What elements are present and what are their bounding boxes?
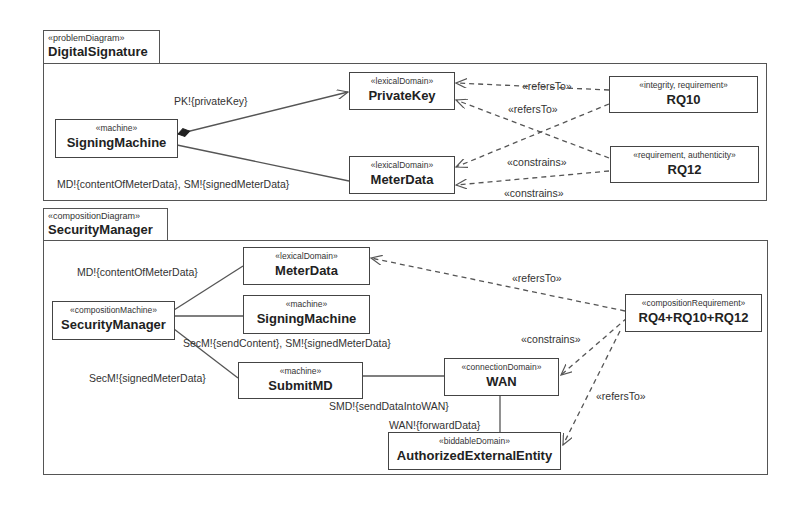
label-smd-send: SMD!{sendDataIntoWAN}	[329, 400, 449, 412]
composition-diagram-stereotype: «compositionDiagram»	[48, 211, 163, 222]
node-name: SigningMachine	[56, 134, 177, 151]
node-stereotype: «biddableDomain»	[389, 436, 560, 447]
node-stereotype: «compositionRequirement»	[626, 298, 761, 309]
node-submit-md[interactable]: «machine» SubmitMD	[238, 362, 363, 399]
node-name: RQ12	[611, 161, 758, 178]
composition-diagram-title: SecurityManager	[48, 222, 163, 237]
problem-diagram-tab: «problemDiagram» DigitalSignature	[43, 30, 160, 64]
node-stereotype: «requirement, authenticity»	[611, 150, 758, 161]
node-stereotype: «lexicalDomain»	[244, 251, 369, 262]
node-name: MeterData	[244, 262, 369, 279]
label-secm-send: SecM!{sendContent}, SM!{signedMeterData}	[183, 337, 391, 349]
composition-diagram-tab: «compositionDiagram» SecurityManager	[43, 208, 168, 241]
label-constrains-1: «constrains»	[507, 156, 567, 168]
label-md-content: MD!{contentOfMeterData}	[77, 266, 198, 278]
node-name: RQ10	[610, 91, 757, 108]
node-name: SubmitMD	[239, 377, 362, 394]
node-signing-machine[interactable]: «machine» SigningMachine	[55, 119, 178, 158]
node-stereotype: «machine»	[56, 123, 177, 134]
node-stereotype: «compositionMachine»	[53, 305, 174, 316]
label-pk: PK!{privateKey}	[174, 95, 248, 107]
node-name: MeterData	[350, 171, 454, 188]
node-meter-data-2[interactable]: «lexicalDomain» MeterData	[243, 247, 370, 285]
node-meter-data[interactable]: «lexicalDomain» MeterData	[349, 156, 455, 194]
node-signing-machine-2[interactable]: «machine» SigningMachine	[243, 295, 370, 334]
node-stereotype: «machine»	[239, 366, 362, 377]
node-name: SigningMachine	[244, 310, 369, 327]
node-stereotype: «lexicalDomain»	[350, 160, 454, 171]
node-stereotype: «connectionDomain»	[445, 362, 558, 373]
problem-diagram-title: DigitalSignature	[48, 44, 155, 59]
node-composition-requirement[interactable]: «compositionRequirement» RQ4+RQ10+RQ12	[625, 294, 762, 332]
node-authorized-external-entity[interactable]: «biddableDomain» AuthorizedExternalEntit…	[388, 432, 561, 470]
node-wan[interactable]: «connectionDomain» WAN	[444, 358, 559, 396]
node-name: PrivateKey	[350, 87, 454, 104]
node-name: AuthorizedExternalEntity	[389, 447, 560, 464]
label-wan-forward: WAN!{forwardData}	[389, 419, 480, 431]
label-md-sm: MD!{contentOfMeterData}, SM!{signedMeter…	[57, 178, 289, 190]
node-stereotype: «lexicalDomain»	[350, 76, 454, 87]
label-constrains-2: «constrains»	[504, 187, 564, 199]
node-stereotype: «integrity, requirement»	[610, 80, 757, 91]
label-refers-to-2: «refersTo»	[508, 103, 558, 115]
node-name: WAN	[445, 373, 558, 390]
node-name: RQ4+RQ10+RQ12	[626, 309, 761, 326]
node-name: SecurityManager	[53, 316, 174, 333]
node-rq10[interactable]: «integrity, requirement» RQ10	[609, 76, 758, 113]
node-rq12[interactable]: «requirement, authenticity» RQ12	[610, 146, 759, 183]
problem-diagram-stereotype: «problemDiagram»	[48, 33, 155, 44]
label-refers-to-1: «refersTo»	[512, 272, 562, 284]
label-secm-signed: SecM!{signedMeterData}	[89, 372, 206, 384]
label-refers-to-1: «refersTo»	[522, 80, 572, 92]
label-constrains: «constrains»	[521, 333, 581, 345]
node-private-key[interactable]: «lexicalDomain» PrivateKey	[349, 72, 455, 110]
node-security-manager[interactable]: «compositionMachine» SecurityManager	[52, 301, 175, 340]
label-refers-to-2: «refersTo»	[596, 390, 646, 402]
node-stereotype: «machine»	[244, 299, 369, 310]
